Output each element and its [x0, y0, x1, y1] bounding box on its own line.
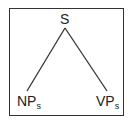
node-vp-subscript: s	[115, 101, 120, 111]
edge-s-vp	[65, 28, 107, 91]
node-np-label: NP	[17, 93, 36, 109]
node-np: NPs	[17, 94, 41, 111]
node-vp-label: VP	[96, 93, 115, 109]
node-s: S	[60, 12, 69, 26]
node-s-label: S	[60, 11, 69, 27]
node-np-subscript: s	[36, 101, 41, 111]
node-vp: VPs	[96, 94, 119, 111]
edge-s-np	[27, 28, 65, 91]
